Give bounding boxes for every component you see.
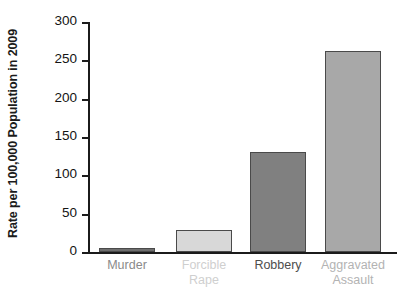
y-axis-tick-label: 150 bbox=[54, 128, 77, 144]
x-axis-label-aggravated-assault: Aggravated Assault bbox=[311, 258, 395, 288]
bar-murder bbox=[99, 248, 155, 252]
y-axis-tick-mark bbox=[82, 252, 89, 254]
y-axis-tick-label: 200 bbox=[54, 90, 77, 106]
y-axis-tick-label: 250 bbox=[54, 51, 77, 67]
y-axis-title: Rate per 100,000 Population in 2009 bbox=[0, 3, 26, 264]
y-axis-tick-mark bbox=[82, 22, 89, 24]
y-axis-tick-label: 50 bbox=[62, 205, 77, 221]
bar-aggravated-assault bbox=[325, 51, 381, 252]
bar-chart-figure: Rate per 100,000 Population in 2009 0501… bbox=[0, 0, 409, 301]
x-axis-line bbox=[88, 252, 397, 254]
bar-robbery bbox=[250, 152, 306, 252]
y-axis-tick-mark bbox=[82, 175, 89, 177]
y-axis-tick-label: 300 bbox=[54, 13, 77, 29]
bar-forcible-rape bbox=[176, 230, 232, 252]
x-axis-label-robbery: Robbery bbox=[236, 258, 320, 273]
x-axis-label-murder: Murder bbox=[85, 258, 169, 273]
y-axis-tick-label: 0 bbox=[69, 243, 77, 259]
y-axis-tick-mark bbox=[82, 214, 89, 216]
y-axis-tick-mark bbox=[82, 137, 89, 139]
x-axis-label-forcible-rape: Forcible Rape bbox=[162, 258, 246, 288]
y-axis-tick-mark bbox=[82, 60, 89, 62]
plot-area: 050100150200250300 bbox=[88, 22, 397, 253]
y-axis-tick-mark bbox=[82, 99, 89, 101]
y-axis-tick-label: 100 bbox=[54, 166, 77, 182]
